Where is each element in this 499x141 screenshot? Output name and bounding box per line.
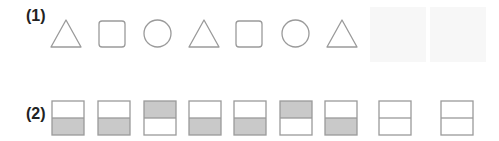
circle-shape (282, 20, 309, 47)
shaded-half-bottom (325, 118, 357, 135)
triangle-shape (51, 20, 81, 47)
shaded-half-bottom (189, 118, 221, 135)
triangle-shape (189, 20, 219, 47)
triangle-shape (327, 20, 357, 47)
shaded-half-bottom (98, 118, 130, 135)
answer-blank-1[interactable] (370, 7, 426, 62)
square-shape (99, 21, 125, 47)
answer-blank-2[interactable] (430, 7, 486, 62)
shaded-half-bottom (52, 118, 84, 135)
shaded-half-top (144, 101, 176, 118)
shaded-half-top (280, 101, 312, 118)
pattern-canvas (0, 0, 499, 141)
shaded-half-bottom (234, 118, 266, 135)
square-shape (236, 21, 262, 47)
circle-shape (144, 20, 171, 47)
